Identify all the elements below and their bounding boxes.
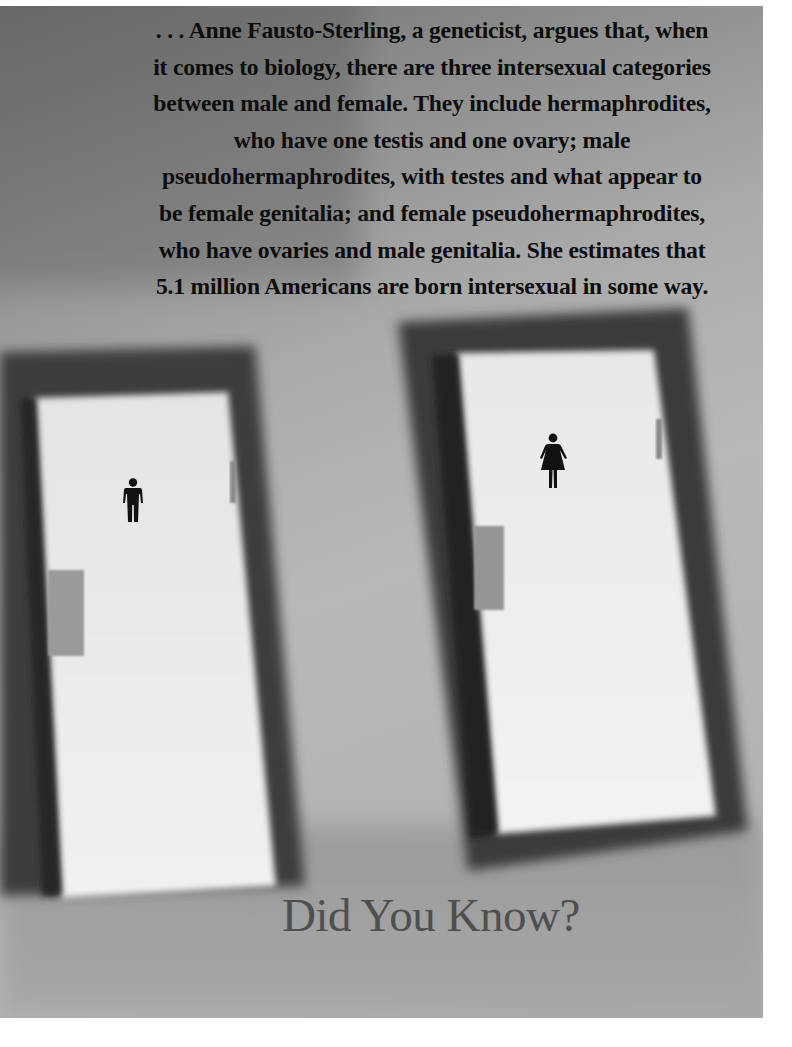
quote-line: be female genitalia; and female pseudohe…	[96, 195, 763, 232]
right-door	[398, 308, 748, 871]
quote-line: . . . Anne Fausto-Sterling, a geneticist…	[96, 12, 763, 49]
quote-line: between male and female. They include he…	[96, 85, 763, 122]
quote-line: it comes to biology, there are three int…	[96, 49, 763, 86]
did-you-know-heading: Did You Know?	[282, 888, 580, 942]
quote-line: who have ovaries and male genitalia. She…	[96, 232, 763, 269]
quote-line: pseudohermaphrodites, with testes and wh…	[96, 158, 763, 195]
quote-line: who have one testis and one ovary; male	[96, 122, 763, 159]
left-door	[0, 346, 305, 898]
intersex-fact-quote: . . . Anne Fausto-Sterling, a geneticist…	[96, 12, 763, 305]
quote-line: 5.1 million Americans are born intersexu…	[96, 268, 763, 305]
left-door-handle	[48, 570, 84, 656]
background-photo: . . . Anne Fausto-Sterling, a geneticist…	[0, 6, 763, 1018]
right-door-handle	[474, 526, 504, 610]
